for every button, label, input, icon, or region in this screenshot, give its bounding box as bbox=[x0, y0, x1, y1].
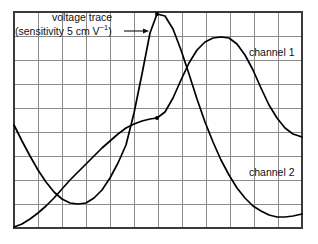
sensitivity-exponent: −1 bbox=[100, 23, 109, 32]
voltage-trace-label: voltage trace bbox=[52, 12, 112, 23]
channel-2-label: channel 2 bbox=[249, 167, 295, 178]
channel-2-midpoint-dot bbox=[155, 116, 159, 120]
sensitivity-prefix: (sensitivity 5 cm V bbox=[15, 25, 100, 37]
channel-1-peak-dot bbox=[155, 12, 159, 16]
oscilloscope-screen bbox=[0, 0, 318, 244]
sensitivity-suffix: ) bbox=[108, 25, 112, 37]
oscilloscope-figure: voltage trace (sensitivity 5 cm V−1) cha… bbox=[0, 0, 318, 244]
channel-1-label: channel 1 bbox=[249, 47, 295, 58]
sensitivity-label: (sensitivity 5 cm V−1) bbox=[15, 24, 112, 37]
